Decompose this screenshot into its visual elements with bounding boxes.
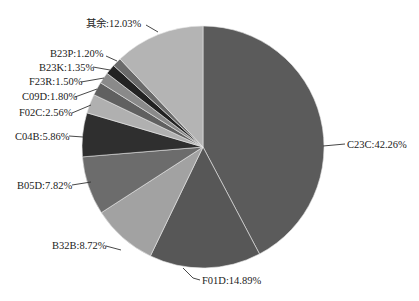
label-c09d: C09D:1.80%: [22, 91, 77, 102]
label-f02c: F02C:2.56%: [19, 107, 73, 118]
label-other: 其余:12.03%: [86, 17, 142, 29]
label-b32b: B32B:8.72%: [52, 240, 107, 251]
label-b05d: B05D:7.82%: [17, 180, 72, 191]
label-c04b: C04B:5.86%: [15, 131, 70, 142]
label-b23k: B23K:1.35%: [39, 62, 94, 73]
pie-slices: [82, 26, 324, 268]
label-c23c: C23C:42.26%: [347, 139, 407, 150]
label-f23r: F23R:1.50%: [29, 76, 83, 87]
pie-chart: C23C:42.26% F01D:14.89% B32B:8.72% B05D:…: [0, 0, 419, 301]
label-b23p: B23P:1.20%: [50, 48, 104, 59]
label-f01d: F01D:14.89%: [202, 275, 261, 286]
